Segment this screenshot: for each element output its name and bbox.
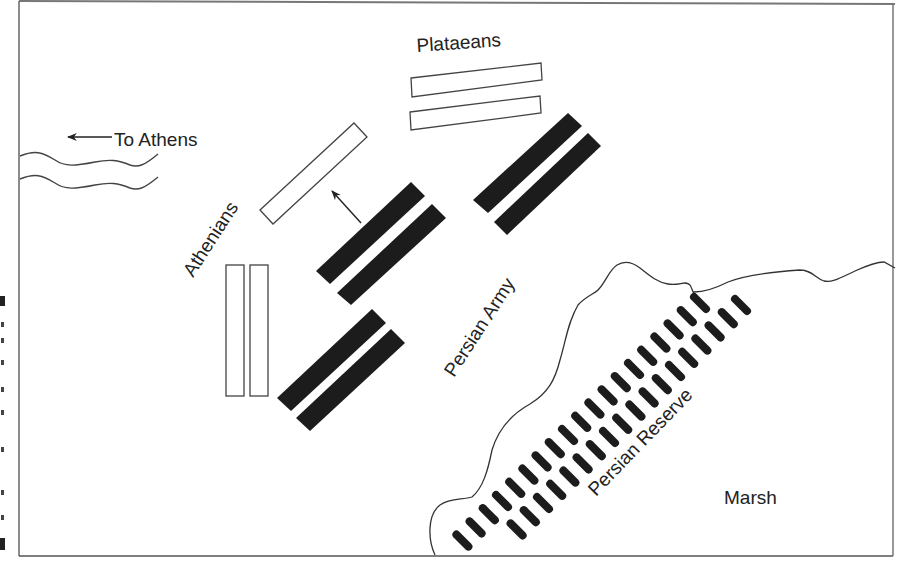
to-athens-label: To Athens [114,129,197,150]
persian-army-label: Persian Army [440,274,519,381]
reserve-unit [496,495,508,507]
reserve-unit [656,378,668,390]
river-bank-north [20,153,158,167]
reserve-unit [470,521,482,533]
reserve-unit [628,363,640,375]
reserve-unit [681,310,693,322]
reserve-unit [522,469,534,481]
advance-arrow-icon [332,191,361,223]
reserve-unit [641,350,653,362]
reserve-unit [602,389,614,401]
reserve-unit [735,299,747,311]
persian-reserve-label: Persian Reserve [584,384,697,500]
reserve-unit [562,429,574,441]
reserve-unit [563,471,575,483]
plataeans-group: Plataeans [410,29,542,130]
athenians-advance-unit [260,123,367,224]
reserve-unit [629,405,641,417]
reserve-unit [722,312,734,324]
reserve-unit [456,535,468,547]
marsh-label: Marsh [724,487,777,508]
caption-glyph [1,410,4,415]
reserve-unit [654,337,666,349]
caption-glyph [1,338,4,343]
reserve-unit [549,442,561,454]
river-bank-south [20,176,158,190]
to-athens-marker: To Athens [68,129,197,150]
reserve-unit [577,457,589,469]
reserve-unit [709,325,721,337]
caption-glyph [1,490,4,495]
reserve-unit [616,418,628,430]
caption-bottom-bar [0,538,5,550]
plataeans-upper-unit [411,63,542,97]
battle-diagram: To Athens Plataeans Athenians Persian Ar… [0,0,897,562]
reserve-unit [511,523,523,535]
caption-glyph [1,447,4,452]
river [20,153,158,190]
athenians-right-unit [250,265,268,396]
reserve-unit [668,323,680,335]
reserve-unit [536,455,548,467]
caption-glyph [1,515,4,520]
reserve-unit [694,297,706,309]
persian-reserve-group [456,297,747,547]
reserve-unit [509,482,521,494]
plataeans-lower-unit [410,96,541,130]
reserve-unit [643,391,655,403]
reserve-unit [615,376,627,388]
plataeans-label: Plataeans [416,29,502,56]
reserve-unit [603,431,615,443]
reserve-unit [588,403,600,415]
reserve-unit [590,444,602,456]
reserve-unit [524,510,536,522]
caption-glyph [1,387,4,392]
reserve-unit [682,352,694,364]
reserve-unit [695,339,707,351]
caption-top-bar [0,296,5,306]
reserve-unit [483,508,495,520]
reserve-unit [669,365,681,377]
reserve-unit [575,416,587,428]
reserve-unit [550,484,562,496]
caption-glyph [1,360,4,365]
caption-glyph [1,322,4,327]
reserve-unit [537,497,549,509]
athenians-left-unit [226,265,244,396]
